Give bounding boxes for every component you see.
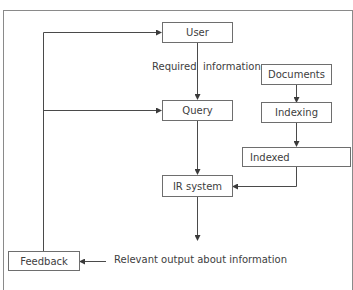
node-query-label: Query: [182, 105, 212, 116]
edge-label-required: Required: [152, 61, 197, 72]
output-label: Relevant output about information: [114, 254, 287, 265]
node-documents: Documents: [261, 64, 332, 85]
edge-label-information: information: [203, 61, 261, 72]
node-ir-system-label: IR system: [173, 181, 222, 192]
node-user: User: [162, 22, 233, 43]
node-query: Query: [162, 100, 233, 121]
node-ir-system: IR system: [162, 175, 233, 197]
node-feedback: Feedback: [8, 251, 80, 271]
node-indexed: Indexed: [242, 147, 351, 167]
node-indexing-label: Indexing: [275, 107, 318, 118]
node-indexing: Indexing: [261, 102, 332, 123]
node-indexed-label: Indexed: [250, 152, 290, 163]
node-feedback-label: Feedback: [20, 256, 68, 267]
node-user-label: User: [186, 27, 209, 38]
node-documents-label: Documents: [268, 69, 325, 80]
